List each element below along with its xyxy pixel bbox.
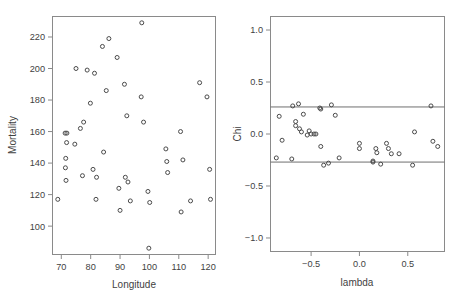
data-point [290, 157, 294, 161]
data-point [85, 68, 89, 72]
data-point [375, 151, 379, 155]
chi-data-points [274, 102, 439, 167]
data-point [122, 82, 126, 86]
data-point [117, 186, 121, 190]
mortality-x-axis-label: Longitude [112, 279, 156, 290]
data-point [63, 166, 67, 170]
y-tick-label: 0.0 [250, 129, 263, 139]
data-point [274, 156, 278, 160]
x-tick-label: 0.5 [401, 259, 414, 269]
data-point [357, 147, 361, 151]
data-point [413, 130, 417, 134]
data-point [94, 197, 98, 201]
chi-reference-lines [271, 107, 445, 162]
data-point [294, 124, 298, 128]
mortality-plot-frame [53, 17, 216, 255]
data-point [146, 189, 150, 193]
data-point [73, 142, 77, 146]
data-point [147, 246, 151, 250]
chi-y-axis-ticks [266, 30, 271, 238]
chi-y-axis-label: Chi [232, 126, 243, 141]
data-point [297, 102, 301, 106]
scatter-panel-mortality: 708090100110120 100120140160180200220 Lo… [0, 0, 230, 301]
data-point [93, 71, 97, 75]
y-tick-label: 200 [30, 64, 45, 74]
data-point [95, 175, 99, 179]
x-tick-label: 90 [115, 262, 125, 272]
data-point [280, 138, 284, 142]
data-point [277, 114, 281, 118]
data-point [411, 163, 415, 167]
data-point [209, 197, 213, 201]
data-point [164, 147, 168, 151]
chi-x-tick-labels: −0.50.00.5 [302, 259, 414, 269]
data-point [431, 139, 435, 143]
y-tick-label: 120 [30, 190, 45, 200]
data-point [385, 141, 389, 145]
chi-x-axis-label: lambda [341, 277, 374, 288]
data-point [123, 175, 127, 179]
x-tick-label: 110 [171, 262, 186, 272]
data-point [102, 150, 106, 154]
data-point [91, 167, 95, 171]
data-point [319, 107, 323, 111]
data-point [56, 197, 60, 201]
y-tick-label: 160 [30, 127, 45, 137]
data-point [322, 163, 326, 167]
data-point [397, 152, 401, 156]
data-point [198, 81, 202, 85]
x-tick-label: 100 [142, 262, 157, 272]
data-point [333, 113, 337, 117]
data-point [80, 174, 84, 178]
data-point [181, 158, 185, 162]
mortality-plot-svg: 708090100110120 100120140160180200220 Lo… [0, 0, 230, 301]
x-tick-label: 80 [86, 262, 96, 272]
data-point [208, 167, 212, 171]
chi-plot-frame [271, 17, 445, 252]
data-point [100, 44, 104, 48]
data-point [74, 67, 78, 71]
data-point [148, 200, 152, 204]
mortality-y-tick-labels: 100120140160180200220 [30, 32, 45, 231]
x-tick-label: 120 [200, 262, 215, 272]
data-point [301, 112, 305, 116]
data-point [294, 120, 298, 124]
mortality-y-axis-ticks [48, 37, 53, 226]
data-point [82, 120, 86, 124]
data-point [140, 21, 144, 25]
mortality-y-axis-label: Mortality [7, 116, 18, 154]
x-tick-label: 70 [56, 262, 66, 272]
data-point [374, 147, 378, 151]
data-point [166, 171, 170, 175]
data-point [329, 103, 333, 107]
data-point [436, 144, 440, 148]
data-point [142, 120, 146, 124]
y-tick-label: −0.5 [245, 181, 263, 191]
data-point [189, 199, 193, 203]
data-point [319, 144, 323, 148]
data-point [88, 101, 92, 105]
data-point [299, 130, 303, 134]
y-tick-label: 140 [30, 158, 45, 168]
data-point [139, 95, 143, 99]
figure-container: 708090100110120 100120140160180200220 Lo… [0, 0, 460, 301]
data-point [118, 208, 122, 212]
data-point [389, 152, 393, 156]
data-point [205, 95, 209, 99]
data-point [165, 160, 169, 164]
data-point [107, 37, 111, 41]
scatter-panel-chi: −0.50.00.5 −1.0−0.50.00.51.0 lambda Chi [230, 0, 460, 301]
y-tick-label: −1.0 [245, 233, 263, 243]
mortality-data-points [56, 21, 213, 250]
data-point [379, 162, 383, 166]
data-point [128, 199, 132, 203]
chi-y-tick-labels: −1.0−0.50.00.51.0 [245, 25, 263, 243]
data-point [104, 89, 108, 93]
x-tick-label: −0.5 [302, 259, 320, 269]
data-point [179, 210, 183, 214]
chi-x-axis-ticks [311, 252, 408, 257]
data-point [115, 55, 119, 59]
y-tick-label: 180 [30, 95, 45, 105]
data-point [65, 141, 69, 145]
y-tick-label: 220 [30, 32, 45, 42]
